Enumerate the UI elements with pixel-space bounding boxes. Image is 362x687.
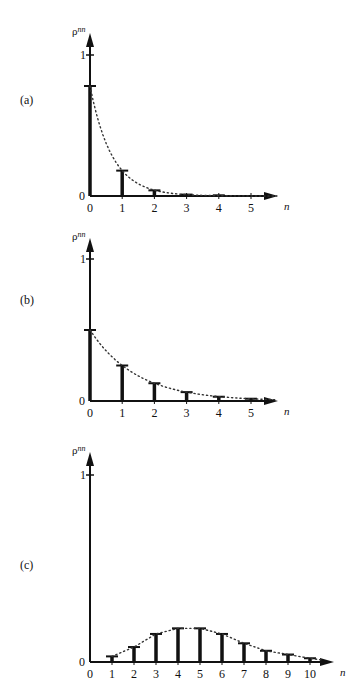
x-axis-arrow-icon [320, 658, 334, 666]
x-tick-label: 5 [248, 406, 254, 420]
envelope-curve [90, 86, 277, 196]
chart-a-group: 10ρnnn012345 [72, 25, 290, 215]
y-axis-arrow-icon [86, 452, 94, 466]
x-tick-label: 3 [184, 406, 190, 420]
x-tick-label: 0 [87, 406, 93, 420]
x-tick-label: 9 [285, 667, 291, 681]
x-tick-label: 2 [131, 667, 137, 681]
x-tick-label: 10 [304, 667, 316, 681]
x-tick-label: 0 [87, 667, 93, 681]
x-tick-label: 2 [151, 201, 157, 215]
y-axis-label: ρnn [72, 230, 86, 242]
x-tick-label: 1 [119, 406, 125, 420]
x-tick-label: 6 [219, 667, 225, 681]
y-tick-label-one: 1 [80, 48, 86, 62]
x-tick-label: 3 [184, 201, 190, 215]
y-axis-arrow-icon [86, 238, 94, 252]
y-axis-arrow-icon [86, 33, 94, 47]
y-tick-label-one: 1 [80, 252, 86, 266]
x-axis-label: n [340, 666, 346, 678]
y-axis-label: ρnn [72, 444, 86, 456]
y-tick-label-one: 1 [80, 468, 86, 482]
x-tick-label: 1 [109, 667, 115, 681]
y-tick-label-zero: 0 [79, 394, 85, 408]
x-tick-label: 7 [241, 667, 247, 681]
x-axis-label: n [284, 200, 290, 212]
x-tick-label: 5 [248, 201, 254, 215]
x-axis-label: n [284, 405, 290, 417]
x-tick-label: 2 [151, 406, 157, 420]
x-tick-label: 4 [216, 201, 222, 215]
chart-a: 10ρnnn01234510ρnnn01234510ρnnn0123456789… [0, 0, 362, 687]
y-tick-label-zero: 0 [79, 189, 85, 203]
y-tick-label-zero: 0 [79, 655, 85, 669]
chart-b-group: 10ρnnn012345 [72, 230, 290, 420]
x-tick-label: 4 [216, 406, 222, 420]
x-tick-label: 3 [153, 667, 159, 681]
x-axis-arrow-icon [264, 397, 278, 405]
x-tick-label: 0 [87, 201, 93, 215]
x-tick-label: 4 [175, 667, 181, 681]
y-axis-label: ρnn [72, 25, 86, 37]
x-tick-label: 5 [197, 667, 203, 681]
x-tick-label: 1 [119, 201, 125, 215]
chart-c-group: 10ρnnn012345678910 [72, 444, 346, 681]
x-tick-label: 8 [263, 667, 269, 681]
